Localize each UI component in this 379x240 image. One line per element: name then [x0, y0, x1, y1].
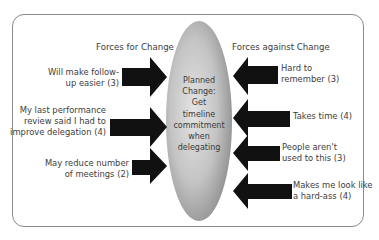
force-for-label-2: My last performance review said I had to…: [10, 105, 106, 138]
label-line: used to this (3): [282, 153, 346, 164]
label-line: May reduce number: [45, 158, 129, 169]
arrow-for-2: [110, 107, 167, 147]
label-line: My last performance: [10, 105, 106, 116]
center-line: delegating: [168, 142, 230, 153]
forces-against-heading: Forces against Change: [232, 42, 330, 53]
center-line: Planned: [168, 75, 230, 86]
arrow-against-2: [233, 99, 290, 137]
label-line: remember (3): [281, 74, 339, 85]
center-line: Change:: [168, 86, 230, 97]
label-line: Takes time (4): [293, 111, 352, 122]
force-for-label-1: Will make follow- up easier (3): [48, 67, 119, 89]
force-against-label-1: Hard to remember (3): [281, 63, 339, 85]
center-line: Get: [168, 97, 230, 108]
center-label: Planned Change: Get timeline commitment …: [168, 75, 230, 153]
label-line: of meetings (2): [45, 169, 129, 180]
arrow-for-3: [132, 148, 167, 184]
label-line: a hard-ass (4): [293, 191, 373, 202]
label-line: Hard to: [281, 63, 339, 74]
label-line: Makes me look like: [293, 180, 373, 191]
arrow-against-3: [233, 135, 280, 171]
force-for-label-3: May reduce number of meetings (2): [45, 158, 129, 180]
label-line: Will make follow-: [48, 67, 119, 78]
label-line: improve delegation (4): [10, 127, 106, 138]
force-against-label-2: Takes time (4): [293, 111, 352, 122]
arrow-against-1: [233, 57, 278, 95]
center-line: commitment: [168, 120, 230, 131]
label-line: review said I had to: [10, 116, 106, 127]
force-against-label-3: People aren't used to this (3): [282, 142, 346, 164]
force-against-label-4: Makes me look like a hard-ass (4): [293, 180, 373, 202]
label-line: up easier (3): [48, 78, 119, 89]
center-line: timeline: [168, 109, 230, 120]
arrow-against-4: [233, 173, 292, 209]
arrow-for-1: [122, 57, 167, 97]
label-line: People aren't: [282, 142, 346, 153]
forces-for-heading: Forces for Change: [96, 42, 174, 53]
center-line: when: [168, 131, 230, 142]
